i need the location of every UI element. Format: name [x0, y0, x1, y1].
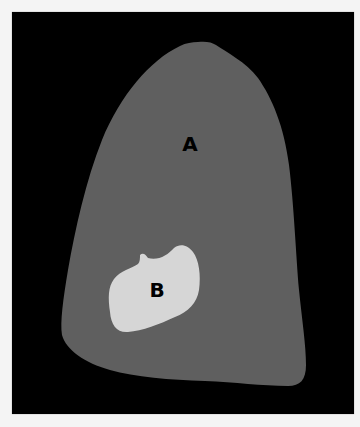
figure-canvas: A B: [0, 0, 360, 427]
region-b-label: B: [149, 278, 164, 302]
diagram-svg: A B: [0, 0, 360, 427]
region-a-label: A: [182, 132, 198, 156]
region-a-shape: [61, 42, 306, 386]
